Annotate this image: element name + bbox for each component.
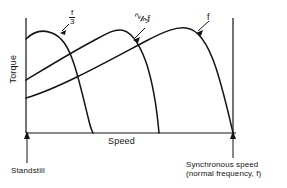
callout-line-two-thirds-f [135,28,145,38]
callout-arrow-f [196,30,203,36]
curve-label-two-thirds-f: 2 3 f [139,10,150,27]
x-axis-label: Speed [108,136,135,146]
synchronous-speed-line2: (normal frequency, f) [186,169,261,178]
standstill-label: Standstill [11,166,45,175]
curve-label-f-over-3: f 3 [69,9,75,26]
synchronous-speed-marker [230,131,236,158]
synchronous-speed-line1: Synchronous speed [186,160,258,169]
standstill-marker [24,131,30,163]
callout-line-f-over-3 [62,24,69,31]
synchronous-speed-label: Synchronous speed (normal frequency, f) [186,160,261,178]
callout-arrow-f-over-3 [60,30,66,35]
y-axis-label: Torque [8,47,18,91]
fraction-f-over-3: f 3 [69,9,75,26]
callout-line-f [198,21,209,31]
curve-f [26,28,233,133]
curve-label-f-text: f [207,12,210,22]
curve-label-f: f [205,12,210,22]
